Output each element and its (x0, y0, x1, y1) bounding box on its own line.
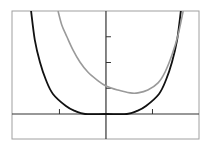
plot-area (0, 0, 209, 148)
chart (0, 0, 209, 148)
